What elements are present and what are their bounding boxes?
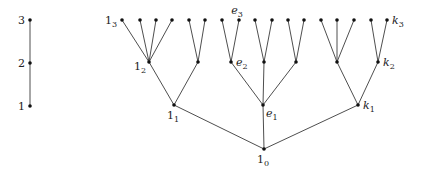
tree-node [147, 60, 151, 64]
tree-node-label: 12 [134, 60, 146, 75]
tree-edge [321, 20, 337, 62]
tree-edge [288, 20, 296, 62]
tree-node [356, 103, 360, 107]
tree-edge [255, 20, 264, 62]
tree-edge [264, 20, 272, 62]
tree-node-label: 10 [257, 153, 269, 168]
tree-node [203, 18, 207, 22]
tree-node-label: 13 [105, 14, 117, 29]
tree-node-label: k1 [363, 99, 375, 114]
tree-edge [174, 105, 264, 149]
tree-edge [371, 20, 378, 62]
tree-node [335, 18, 339, 22]
tree-node [220, 18, 224, 22]
chain-node-label: 1 [18, 100, 25, 113]
tree-node [385, 18, 389, 22]
tree-node [376, 60, 380, 64]
chain-node [28, 61, 32, 65]
tree-node-label: e1 [266, 107, 278, 122]
tree-node [262, 60, 266, 64]
chain-node-label: 2 [18, 57, 25, 70]
tree-node-label: 11 [167, 109, 179, 124]
tree-node [261, 103, 265, 107]
tree-edge [296, 20, 304, 62]
tree-edge [222, 20, 231, 62]
chain-node-label: 3 [18, 14, 25, 27]
tree-node [286, 18, 290, 22]
tree-edge [263, 105, 264, 149]
tree-node [319, 18, 323, 22]
level-chain: 321 [18, 14, 32, 113]
tree-node [120, 18, 124, 22]
tree-edge [189, 20, 198, 62]
tree-node [187, 18, 191, 22]
tree-node [154, 18, 158, 22]
tree-edge [263, 62, 296, 105]
tree-edge [337, 62, 358, 105]
chain-node [28, 104, 32, 108]
chain-node [28, 18, 32, 22]
tree-edge [263, 62, 264, 105]
tree-node [352, 18, 356, 22]
tree-edge [337, 20, 354, 62]
tree-node [302, 18, 306, 22]
tree-node [270, 18, 274, 22]
tree-node [196, 60, 200, 64]
tree-edge [198, 20, 205, 62]
tree-node [170, 18, 174, 22]
tree-node [335, 60, 339, 64]
tree-node-label: k2 [383, 56, 395, 71]
tree-node-label: e3 [231, 4, 243, 19]
tree-edge [174, 62, 198, 105]
tree-diagram: 321 1011e1k112e2k213e3k3 [0, 0, 424, 174]
tree-node [294, 60, 298, 64]
tree-node-label: k3 [392, 14, 404, 29]
tree-node [138, 18, 142, 22]
tree-edge [264, 105, 358, 149]
tree-edge [149, 62, 174, 105]
tree-node [253, 18, 257, 22]
tree-node [229, 60, 233, 64]
tree: 1011e1k112e2k213e3k3 [105, 4, 404, 168]
tree-node [369, 18, 373, 22]
tree-node [262, 147, 266, 151]
tree-node [172, 103, 176, 107]
tree-node-label: e2 [236, 56, 248, 71]
